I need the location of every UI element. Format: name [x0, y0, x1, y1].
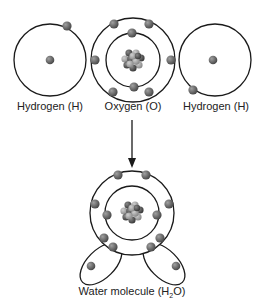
hydrogen-atom-left [14, 21, 86, 96]
oxygen-nucleus [121, 49, 144, 71]
label-hydrogen-left: Hydrogen (H) [17, 100, 83, 112]
label-water-suffix: O) [173, 285, 185, 297]
hydrogen-nucleus [87, 262, 96, 271]
hydrogen-nucleus [209, 56, 218, 65]
hydrogen-nucleus [46, 56, 55, 65]
electron [188, 85, 197, 94]
hydrogen-atom-right [179, 24, 251, 96]
oxygen-atom [90, 18, 175, 102]
water-molecule [73, 170, 193, 292]
label-water-molecule: Water molecule (H2O) [79, 285, 186, 299]
water-formation-diagram [0, 0, 264, 301]
label-hydrogen-right: Hydrogen (H) [183, 100, 249, 112]
electron [62, 21, 71, 30]
label-oxygen: Oxygen (O) [105, 100, 162, 112]
label-water-prefix: Water molecule (H [79, 285, 170, 297]
hydrogen-nucleus [172, 262, 181, 271]
reaction-arrow [128, 120, 136, 168]
